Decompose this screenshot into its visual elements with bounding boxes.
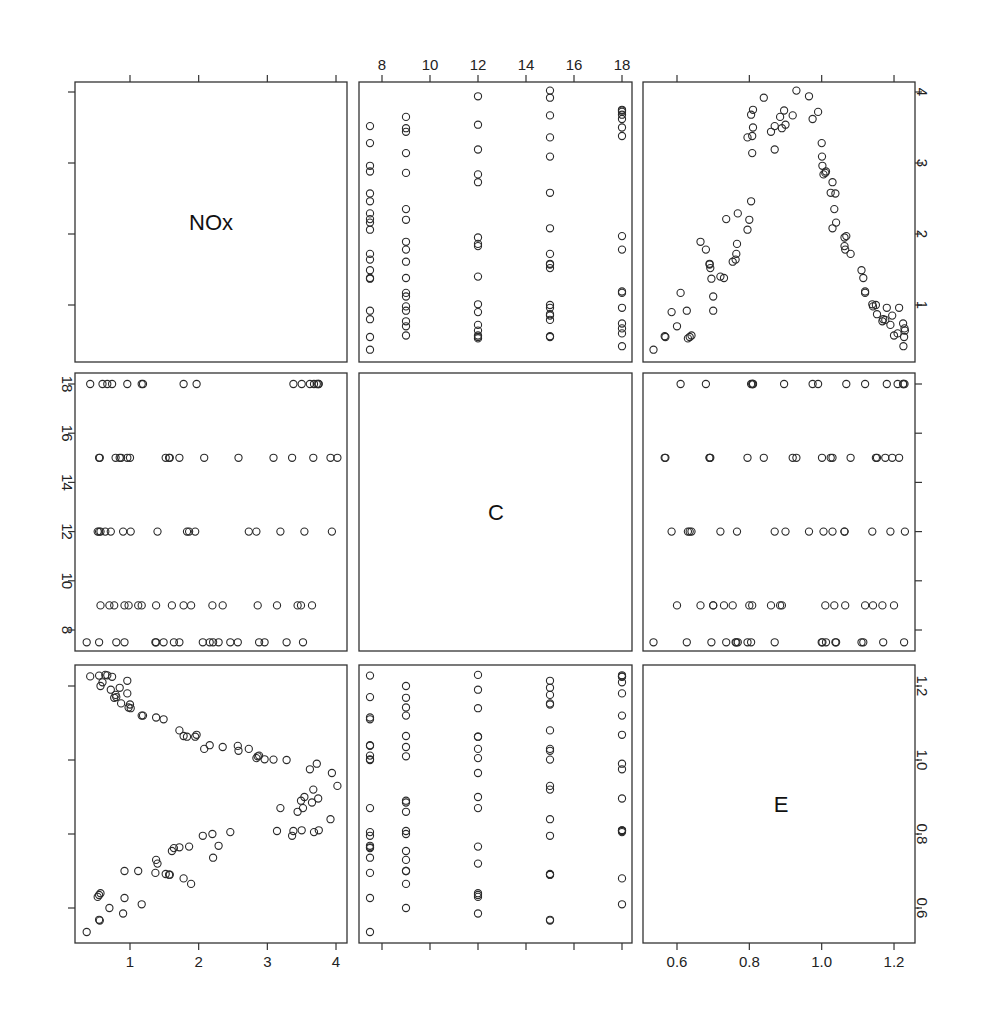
right-axis-tick-label: 0.8 [914, 824, 931, 845]
data-point [677, 380, 684, 387]
data-point [744, 134, 751, 141]
data-point [402, 704, 409, 711]
data-point [116, 684, 123, 691]
panel-points-e-vs-nox [83, 671, 341, 935]
data-point [152, 869, 159, 876]
data-point [771, 146, 778, 153]
data-point [900, 320, 907, 327]
data-point [328, 528, 335, 535]
right-axis-tick-label: 1 [914, 301, 931, 309]
data-point [879, 602, 886, 609]
right-axis-tick-label: 1.2 [914, 676, 931, 697]
data-point [153, 714, 160, 721]
diagonal-label-c: C [488, 500, 504, 525]
data-point [310, 786, 317, 793]
data-point [402, 150, 409, 157]
data-point [127, 528, 134, 535]
data-point [199, 639, 206, 646]
data-point [124, 690, 131, 697]
data-point [708, 639, 715, 646]
bottom-axis-tick-label: 4 [332, 953, 340, 970]
data-point [900, 343, 907, 350]
top-axis-tick-label: 8 [378, 56, 386, 73]
data-point [366, 869, 373, 876]
data-point [890, 602, 897, 609]
data-point [815, 108, 822, 115]
data-point [618, 132, 625, 139]
data-point [869, 602, 876, 609]
data-point [710, 293, 717, 300]
data-point [650, 346, 657, 353]
data-point [366, 190, 373, 197]
data-point [315, 827, 322, 834]
data-point [829, 179, 836, 186]
bottom-axis-tick-label: 0.6 [667, 953, 688, 970]
data-point [402, 169, 409, 176]
data-point [697, 602, 704, 609]
data-point [273, 827, 280, 834]
left-axis-tick-label: 14 [59, 474, 76, 491]
data-point [841, 528, 848, 535]
data-point [87, 673, 94, 680]
data-point [815, 380, 822, 387]
data-point [256, 639, 263, 646]
diagonal-label-nox: NOx [189, 210, 233, 235]
panel-points-e-vs-c [366, 671, 625, 935]
data-point [829, 528, 836, 535]
data-point [677, 289, 684, 296]
data-point [697, 238, 704, 245]
data-point [832, 190, 839, 197]
data-point [402, 856, 409, 863]
data-point [219, 602, 226, 609]
data-point [109, 380, 116, 387]
data-point [760, 94, 767, 101]
data-point [546, 225, 553, 232]
data-point [474, 793, 481, 800]
data-point [744, 454, 751, 461]
data-point [749, 124, 756, 131]
data-point [829, 225, 836, 232]
data-point [546, 727, 553, 734]
data-point [366, 805, 373, 812]
data-point [858, 267, 865, 274]
data-point [277, 528, 284, 535]
data-point [843, 380, 850, 387]
data-point [618, 875, 625, 882]
data-point [334, 782, 341, 789]
panel-nox-vs-c [359, 82, 632, 362]
data-point [618, 731, 625, 738]
data-point [366, 316, 373, 323]
data-point [186, 843, 193, 850]
data-point [847, 250, 854, 257]
data-point [789, 112, 796, 119]
data-point [822, 602, 829, 609]
data-point [402, 712, 409, 719]
data-point [209, 830, 216, 837]
data-point [546, 153, 553, 160]
data-point [717, 528, 724, 535]
data-point [746, 216, 753, 223]
data-point [210, 854, 217, 861]
data-point [245, 528, 252, 535]
data-point [201, 745, 208, 752]
data-point [546, 189, 553, 196]
data-point [869, 528, 876, 535]
data-point [120, 528, 127, 535]
data-point [901, 639, 908, 646]
data-point [710, 602, 717, 609]
data-point [618, 343, 625, 350]
data-point [618, 901, 625, 908]
data-point [843, 233, 850, 240]
data-point [546, 691, 553, 698]
data-point [748, 111, 755, 118]
data-point [135, 867, 142, 874]
data-point [366, 198, 373, 205]
left-axis-tick-label: 18 [59, 376, 76, 393]
panel-points-nox-vs-c [366, 87, 625, 353]
left-axis-tick-label: 16 [59, 425, 76, 442]
data-point [882, 454, 889, 461]
data-point [767, 602, 774, 609]
data-point [474, 121, 481, 128]
data-point [668, 528, 675, 535]
data-point [289, 832, 296, 839]
